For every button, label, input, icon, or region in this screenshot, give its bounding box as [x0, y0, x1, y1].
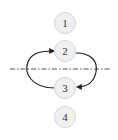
node-4-label: 4 [62, 111, 68, 123]
node-2-label: 2 [62, 45, 68, 57]
node-4: 4 [55, 107, 76, 128]
node-2: 2 [55, 41, 76, 62]
diagram-canvas: 1 2 3 4 [0, 0, 118, 140]
node-1: 1 [55, 13, 76, 34]
node-1-label: 1 [62, 17, 68, 29]
node-3-label: 3 [62, 82, 68, 94]
edge-2-to-3-right [76, 53, 96, 87]
node-3: 3 [55, 78, 76, 99]
